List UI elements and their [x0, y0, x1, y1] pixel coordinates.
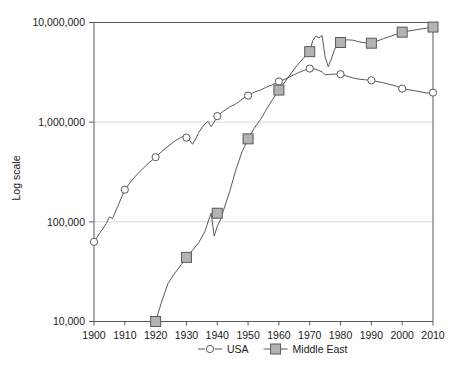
data-point-marker [275, 78, 282, 85]
data-point-marker [274, 85, 284, 95]
data-point-marker [90, 238, 97, 245]
y-tick-label-100000: 100,000 [47, 216, 85, 228]
data-point-marker [397, 27, 407, 37]
data-point-marker [121, 186, 128, 193]
data-point-marker [183, 134, 190, 141]
x-tick-label-1900: 1900 [82, 329, 106, 341]
x-tick-label-1980: 1980 [329, 329, 353, 341]
x-tick-label-2010: 2010 [421, 329, 445, 341]
x-tick-label-1970: 1970 [298, 329, 322, 341]
data-point-marker [244, 92, 251, 99]
data-point-marker [336, 38, 346, 48]
legend-label: Middle East [293, 343, 348, 355]
data-point-marker [368, 77, 375, 84]
data-point-marker [428, 22, 438, 32]
x-tick-label-1990: 1990 [360, 329, 384, 341]
y-axis-label: Log scale [10, 155, 22, 200]
data-point-marker [366, 38, 376, 48]
x-tick-label-1950: 1950 [236, 329, 260, 341]
x-tick-label-2000: 2000 [391, 329, 415, 341]
data-point-marker [152, 154, 159, 161]
data-point-marker [243, 134, 253, 144]
data-point-marker [305, 47, 315, 57]
log-scale-line-chart: 10,000100,0001,000,00010,000,000 1900191… [0, 0, 456, 372]
legend-label: USA [227, 343, 249, 355]
data-point-marker [306, 65, 313, 72]
x-tick-label-1940: 1940 [206, 329, 230, 341]
chart-container: 10,000100,0001,000,00010,000,000 1900191… [0, 0, 456, 372]
y-tick-label-10000000: 10,000,000 [32, 16, 85, 28]
y-tick-label-1000000: 1,000,000 [38, 116, 85, 128]
data-point-marker [151, 317, 161, 327]
data-point-marker [337, 71, 344, 78]
x-tick-label-1960: 1960 [267, 329, 291, 341]
x-tick-label-1920: 1920 [144, 329, 168, 341]
legend-circle-marker-icon [206, 345, 213, 352]
data-point-marker [429, 89, 436, 96]
legend-square-marker-icon [271, 344, 281, 354]
data-point-marker [214, 113, 221, 120]
data-point-marker [399, 85, 406, 92]
x-tick-label-1930: 1930 [175, 329, 199, 341]
x-tick-label-1910: 1910 [113, 329, 137, 341]
y-tick-label-10000: 10,000 [53, 315, 85, 327]
legend-item-middle-east[interactable]: Middle East [264, 343, 348, 355]
data-point-marker [212, 208, 222, 218]
data-point-marker [181, 252, 191, 262]
